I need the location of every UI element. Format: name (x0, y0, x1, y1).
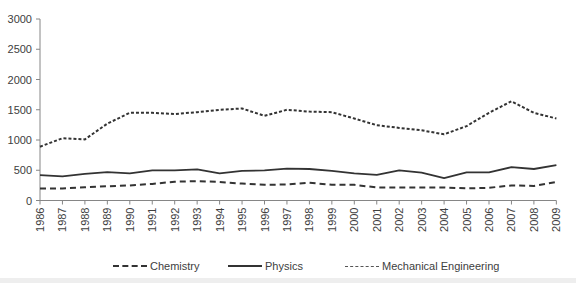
x-tick-label: 1986 (34, 208, 46, 232)
x-tick-label: 1990 (124, 208, 136, 232)
legend-label: Physics (265, 260, 303, 272)
y-axis: 050010001500200025003000 (8, 13, 40, 207)
chemistry-line-swatch (113, 265, 147, 267)
y-tick-label: 2000 (8, 74, 32, 86)
x-tick-label: 1987 (56, 208, 68, 232)
x-tick-label: 2006 (483, 208, 495, 232)
x-tick-label: 1991 (146, 208, 158, 232)
x-tick-label: 2009 (550, 208, 562, 232)
y-tick-label: 1000 (8, 134, 32, 146)
x-tick-label: 1998 (303, 208, 315, 232)
x-tick-label: 2005 (461, 208, 473, 232)
y-tick-label: 2500 (8, 43, 32, 55)
series-physics (40, 165, 556, 178)
legend: Chemistry Physics Mechanical Engineering (0, 257, 576, 275)
x-tick-label: 1995 (236, 208, 248, 232)
x-tick-label: 1996 (259, 208, 271, 232)
legend-label: Chemistry (150, 260, 200, 272)
bottom-divider (0, 278, 576, 283)
legend-item-physics: Physics (228, 257, 303, 275)
x-tick-label: 2001 (371, 208, 383, 232)
x-tick-label: 1997 (281, 208, 293, 232)
series-mechanical-engineering (40, 181, 556, 188)
x-tick-label: 1989 (101, 208, 113, 232)
x-tick-label: 1992 (169, 208, 181, 232)
y-tick-label: 3000 (8, 13, 32, 25)
y-tick-label: 500 (14, 164, 32, 176)
legend-item-chemistry: Chemistry (113, 257, 200, 275)
series-chemistry (40, 101, 556, 146)
x-tick-label: 2004 (438, 208, 450, 232)
y-tick-label: 0 (26, 195, 32, 207)
series-lines (40, 101, 556, 188)
x-tick-label: 2008 (528, 208, 540, 232)
y-tick-label: 1500 (8, 104, 32, 116)
x-tick-label: 2007 (505, 208, 517, 232)
legend-label: Mechanical Engineering (382, 260, 499, 272)
x-tick-label: 1993 (191, 208, 203, 232)
mechanical-engineering-line-swatch (345, 266, 379, 267)
physics-line-swatch (228, 265, 262, 267)
x-tick-label: 1999 (326, 208, 338, 232)
x-tick-label: 2003 (416, 208, 428, 232)
x-tick-label: 1988 (79, 208, 91, 232)
x-axis: 1986198719881989199019911992199319941995… (34, 201, 562, 232)
line-chart: 050010001500200025003000 198619871988198… (0, 0, 576, 257)
x-tick-label: 2000 (348, 208, 360, 232)
x-tick-label: 2002 (393, 208, 405, 232)
x-tick-label: 1994 (214, 208, 226, 232)
legend-item-mechanical-engineering: Mechanical Engineering (345, 257, 499, 275)
